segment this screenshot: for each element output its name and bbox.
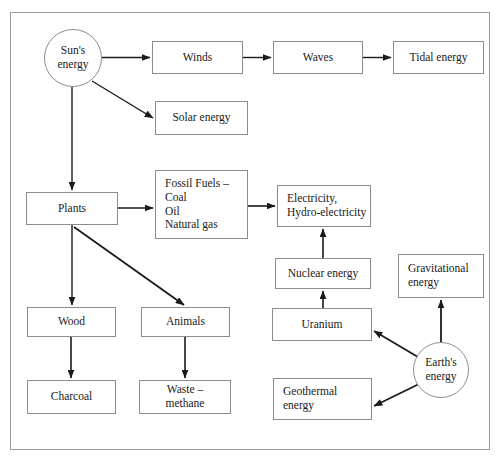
node-label-winds: Winds [159, 51, 236, 65]
node-charcoal[interactable]: Charcoal [27, 380, 116, 414]
node-geothermal-energy[interactable]: Geothermal energy [273, 378, 372, 420]
node-earths-energy[interactable]: Earth's energy [413, 342, 469, 398]
node-label-nuclear-energy: Nuclear energy [282, 267, 364, 281]
node-label-charcoal: Charcoal [34, 390, 109, 404]
node-label-plants: Plants [33, 202, 111, 216]
node-label-wood: Wood [34, 315, 109, 329]
node-nuclear-energy[interactable]: Nuclear energy [275, 258, 371, 289]
node-label-gravitational-energy: Gravitational energy [408, 262, 483, 289]
node-suns-energy[interactable]: Sun's energy [44, 29, 102, 87]
node-label-electricity: Electricity, Hydro-electricity [287, 192, 370, 219]
node-gravitational-energy[interactable]: Gravitational energy [398, 254, 484, 298]
node-label-suns-energy: Sun's energy [45, 44, 101, 71]
node-electricity[interactable]: Electricity, Hydro-electricity [277, 185, 371, 227]
node-wood[interactable]: Wood [27, 307, 116, 337]
node-label-waves: Waves [280, 51, 356, 65]
node-uranium[interactable]: Uranium [272, 308, 372, 341]
node-label-tidal-energy: Tidal energy [400, 51, 477, 65]
node-waves[interactable]: Waves [273, 41, 363, 74]
node-label-earths-energy: Earth's energy [414, 356, 468, 383]
node-waste-methane[interactable]: Waste – methane [139, 380, 231, 414]
node-animals[interactable]: Animals [141, 307, 230, 337]
node-label-waste-methane: Waste – methane [146, 383, 224, 410]
node-label-solar-energy: Solar energy [162, 111, 241, 125]
node-plants[interactable]: Plants [26, 192, 118, 225]
node-label-geothermal-energy: Geothermal energy [283, 385, 371, 412]
node-tidal-energy[interactable]: Tidal energy [393, 41, 484, 74]
node-label-animals: Animals [148, 315, 223, 329]
diagram-canvas: Sun's energy Winds Waves Tidal energy So… [0, 0, 503, 464]
node-fossil-fuels[interactable]: Fossil Fuels – Coal Oil Natural gas [155, 170, 248, 239]
node-label-uranium: Uranium [279, 318, 365, 332]
node-solar-energy[interactable]: Solar energy [155, 101, 248, 135]
node-label-fossil-fuels: Fossil Fuels – Coal Oil Natural gas [165, 177, 247, 231]
node-winds[interactable]: Winds [152, 41, 243, 74]
